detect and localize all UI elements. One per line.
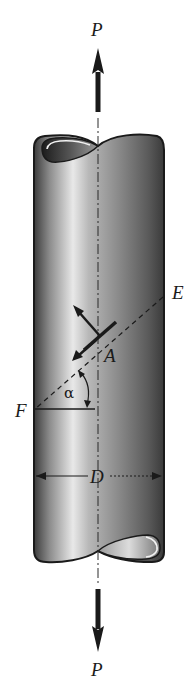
angle-label-alpha: α bbox=[64, 384, 74, 402]
point-label-f: F bbox=[14, 400, 27, 421]
load-label-top: P bbox=[90, 19, 103, 40]
diameter-label-d: D bbox=[89, 466, 104, 487]
shaft-diagram: P A E F α D bbox=[0, 0, 196, 699]
load-arrow-top bbox=[92, 48, 104, 112]
point-label-a: A bbox=[102, 345, 116, 366]
load-label-bottom: P bbox=[90, 659, 103, 680]
load-arrow-bottom bbox=[92, 589, 104, 652]
shaft-body bbox=[34, 135, 164, 563]
point-label-e: E bbox=[171, 282, 184, 303]
